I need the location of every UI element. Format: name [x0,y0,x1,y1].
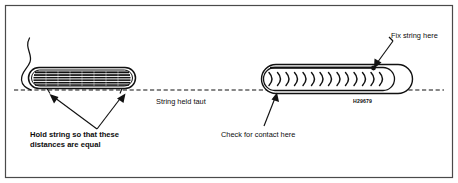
diagram-canvas: Hold string so that these distances are … [0,0,458,183]
left-spring [29,68,136,89]
right-spring [262,65,413,94]
part-code-label: H29679 [353,98,372,104]
hold-string-label-line1: Hold string so that these [30,130,119,139]
right-spring-inner-body [264,68,395,91]
string-held-taut-label: String held taut [156,97,206,106]
hold-string-label-line2: distances are equal [30,140,101,149]
diagram-figure: Hold string so that these distances are … [0,0,458,183]
fix-string-here-label: Fix string here [391,31,438,40]
check-for-contact-here-label: Check for contact here [221,130,295,139]
